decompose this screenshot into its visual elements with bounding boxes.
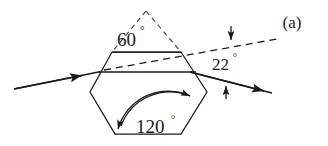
incident-ray-arrowhead	[14, 75, 82, 89]
apex-triangle-right-edge	[146, 11, 181, 52]
deviation-angle-degree-symbol: °	[233, 52, 237, 63]
interior-angle-degree-symbol: °	[171, 113, 175, 125]
interior-angle-value: 120	[136, 116, 165, 137]
apex-angle-value: 60	[117, 29, 136, 50]
panel-label: (a)	[283, 13, 302, 32]
apex-angle-degree-symbol: °	[138, 23, 148, 36]
deviation-angle-value: 22	[212, 55, 229, 74]
optics-diagram-svg: 60 ° 22 ° 120 ° (a)	[0, 0, 328, 146]
figure-canvas: 60 ° 22 ° 120 ° (a)	[0, 0, 328, 146]
incident-light-ray	[14, 72, 101, 89]
refracted-exit-ray	[190, 72, 272, 93]
exit-ray-arrowhead	[190, 72, 264, 91]
